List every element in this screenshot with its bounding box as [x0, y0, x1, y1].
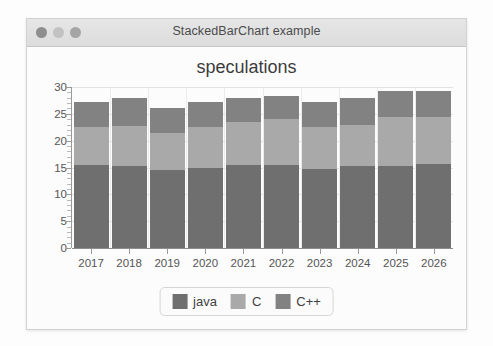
x-axis-tick-label: 2020: [188, 257, 223, 269]
y-axis-tick: [65, 168, 71, 169]
legend-item[interactable]: java: [172, 294, 217, 309]
y-axis-minor-tick: [67, 98, 71, 99]
bar-stack[interactable]: [74, 87, 109, 248]
application-window: StackedBarChart example speculations 051…: [26, 18, 467, 330]
x-axis-tick-label: 2019: [150, 257, 185, 269]
y-axis-tick: [65, 221, 71, 222]
x-axis-tick: [129, 249, 130, 254]
y-axis-minor-tick: [67, 243, 71, 244]
bar-segment-cpp[interactable]: [226, 98, 261, 122]
legend-label: C: [252, 294, 261, 309]
y-axis-minor-tick: [67, 92, 71, 93]
chart-container: speculations 051015202530 20172018201920…: [27, 47, 466, 330]
x-axis-tick-label: 2024: [340, 257, 375, 269]
y-axis-minor-tick: [67, 135, 71, 136]
y-axis-minor-tick: [67, 216, 71, 217]
y-axis-minor-tick: [67, 200, 71, 201]
bar-stack[interactable]: [416, 87, 451, 248]
bar-segment-cpp[interactable]: [188, 102, 223, 127]
bar-segment-cpp[interactable]: [74, 102, 109, 128]
bar-segment-java[interactable]: [378, 166, 413, 248]
x-axis-tick-label: 2018: [112, 257, 147, 269]
bar-segment-c[interactable]: [302, 127, 337, 168]
bar-stack[interactable]: [188, 87, 223, 248]
bar-stack[interactable]: [112, 87, 147, 248]
bar-segment-c[interactable]: [378, 117, 413, 166]
legend-swatch-icon: [172, 294, 187, 309]
bar-stack[interactable]: [264, 87, 299, 248]
bar-segment-java[interactable]: [226, 165, 261, 248]
y-axis-minor-tick: [67, 178, 71, 179]
bar-segment-c[interactable]: [340, 125, 375, 167]
x-axis: 2017201820192020202120222023202420252026: [72, 257, 453, 269]
bar-segment-java[interactable]: [302, 169, 337, 248]
x-axis-tick: [282, 249, 283, 254]
bar-segment-cpp[interactable]: [416, 91, 451, 117]
x-axis-tick-label: 2021: [226, 257, 261, 269]
x-axis-tick: [205, 249, 206, 254]
legend-swatch-icon: [231, 294, 246, 309]
bar-segment-c[interactable]: [188, 127, 223, 167]
bar-segment-cpp[interactable]: [150, 108, 185, 132]
y-axis-minor-tick: [67, 227, 71, 228]
x-axis-tick-label: 2017: [74, 257, 109, 269]
y-axis-minor-tick: [67, 184, 71, 185]
bar-segment-c[interactable]: [264, 119, 299, 165]
y-axis-tick: [65, 87, 71, 88]
x-axis-tick: [243, 249, 244, 254]
bar-segment-cpp[interactable]: [378, 91, 413, 117]
y-axis-minor-tick: [67, 157, 71, 158]
bar-segment-c[interactable]: [150, 133, 185, 171]
y-axis-minor-tick: [67, 103, 71, 104]
bar-stack[interactable]: [226, 87, 261, 248]
x-axis-tick-label: 2022: [264, 257, 299, 269]
bar-stack[interactable]: [378, 87, 413, 248]
y-axis-minor-tick: [67, 125, 71, 126]
y-axis-minor-tick: [67, 232, 71, 233]
y-axis-minor-tick: [67, 237, 71, 238]
bar-segment-c[interactable]: [112, 126, 147, 166]
y-axis-minor-tick: [67, 146, 71, 147]
y-axis-tick: [65, 114, 71, 115]
bar-segment-cpp[interactable]: [112, 98, 147, 126]
window-titlebar: StackedBarChart example: [27, 19, 466, 47]
bar-stack[interactable]: [150, 87, 185, 248]
bar-segment-java[interactable]: [188, 168, 223, 249]
bar-segment-java[interactable]: [340, 166, 375, 248]
bar-segment-cpp[interactable]: [340, 98, 375, 125]
chart-title: speculations: [27, 57, 466, 78]
bar-stack[interactable]: [340, 87, 375, 248]
bar-segment-c[interactable]: [416, 117, 451, 164]
bar-group: [72, 87, 453, 248]
x-axis-tick: [396, 249, 397, 254]
y-axis-tick: [65, 248, 71, 249]
bar-segment-java[interactable]: [264, 165, 299, 248]
y-axis-minor-tick: [67, 130, 71, 131]
x-axis-tick: [320, 249, 321, 254]
bar-segment-java[interactable]: [112, 166, 147, 248]
bar-segment-java[interactable]: [74, 165, 109, 248]
x-axis-tick: [358, 249, 359, 254]
y-axis-minor-tick: [67, 108, 71, 109]
bar-stack[interactable]: [302, 87, 337, 248]
y-axis-minor-tick: [67, 210, 71, 211]
legend-label: java: [193, 294, 217, 309]
legend-label: C++: [296, 294, 321, 309]
legend-item[interactable]: C++: [275, 294, 321, 309]
bar-segment-java[interactable]: [416, 164, 451, 248]
bar-segment-cpp[interactable]: [302, 102, 337, 128]
x-axis-tick-label: 2025: [378, 257, 413, 269]
x-axis-tick-label: 2023: [302, 257, 337, 269]
bar-segment-c[interactable]: [226, 122, 261, 165]
x-axis-tick: [167, 249, 168, 254]
chart-legend: javaCC++: [159, 287, 334, 316]
bar-segment-cpp[interactable]: [264, 96, 299, 119]
y-axis-minor-tick: [67, 162, 71, 163]
y-axis-minor-tick: [67, 151, 71, 152]
plot-area: [72, 87, 453, 248]
y-axis-minor-tick: [67, 189, 71, 190]
x-axis-tick: [91, 249, 92, 254]
bar-segment-c[interactable]: [74, 127, 109, 165]
legend-item[interactable]: C: [231, 294, 261, 309]
bar-segment-java[interactable]: [150, 170, 185, 248]
